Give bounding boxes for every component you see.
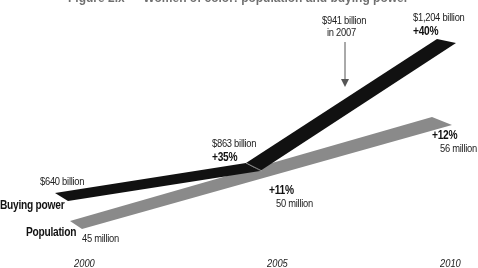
population-band <box>70 117 452 229</box>
label-bp-2007: $941 billion <box>322 14 366 26</box>
label-pop-2005: 50 million <box>276 197 313 209</box>
label-bp-2005: $863 billion <box>212 137 256 149</box>
label-pop-2000: 45 million <box>82 232 119 244</box>
label-bp-2005-change: +35% <box>212 150 237 164</box>
label-pop-2010-change: +12% <box>432 128 457 142</box>
x-tick-2010: 2010 <box>440 257 461 268</box>
series-label-buying-power: Buying power <box>0 198 64 212</box>
label-bp-2000: $640 billion <box>40 175 84 187</box>
series-label-population: Population <box>26 225 76 239</box>
label-bp-2010-change: +40% <box>413 24 438 38</box>
x-tick-2005: 2005 <box>267 257 288 268</box>
x-tick-2000: 2000 <box>74 257 95 268</box>
label-bp-2010: $1,204 billion <box>413 11 465 23</box>
label-pop-2005-change: +11% <box>269 183 294 197</box>
label-pop-2010: 56 million <box>440 142 477 154</box>
label-bp-2007-note: in 2007 <box>327 26 356 38</box>
annotation-arrowhead-icon <box>341 79 349 87</box>
